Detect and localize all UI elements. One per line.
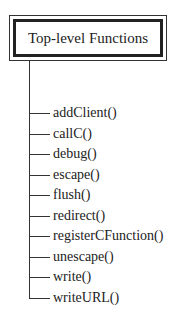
child-node-label: redirect() [53,208,105,224]
branch-line [29,257,50,258]
child-node-label: callC() [53,126,92,142]
root-node-inner-border: Top-level Functions [13,19,163,57]
branch-line [29,113,50,114]
branch-line [29,277,50,278]
child-node-label: debug() [53,146,97,162]
child-node: write() [29,269,91,285]
child-node-label: write() [53,269,91,285]
child-node: flush() [29,187,90,203]
root-node-box: Top-level Functions [9,15,167,61]
child-node-label: registerCFunction() [53,228,163,244]
branch-line [29,195,50,196]
child-node: callC() [29,126,92,142]
child-node-label: addClient() [53,105,117,121]
child-node: escape() [29,167,100,183]
child-node: registerCFunction() [29,228,163,244]
child-node: unescape() [29,249,114,265]
child-node-label: writeURL() [53,290,119,306]
branch-line [29,236,50,237]
child-node-label: flush() [53,187,90,203]
branch-line [29,298,50,299]
root-node-label: Top-level Functions [28,30,148,47]
branch-line [29,216,50,217]
child-node: addClient() [29,105,117,121]
child-node: debug() [29,146,97,162]
child-node-label: escape() [53,167,100,183]
branch-line [29,134,50,135]
child-node-label: unescape() [53,249,114,265]
child-node: redirect() [29,208,105,224]
branch-line [29,175,50,176]
child-node: writeURL() [29,290,119,306]
branch-line [29,154,50,155]
